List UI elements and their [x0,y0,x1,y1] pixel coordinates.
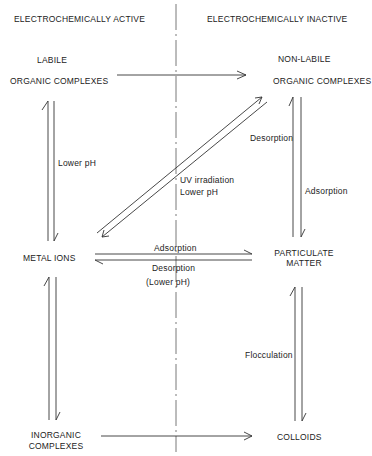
arrow-pair-metal-nonlabile-diagonal [97,97,267,237]
label-desorption-mid: Desorption [152,263,195,273]
label-uv-lower-ph: Lower pH [180,187,218,197]
node-metal-ions: METAL IONS [23,253,76,263]
label-uv-irradiation: UV irradiation [180,175,234,185]
arrow-pair-labile-metal [42,101,58,241]
label-lower-ph-mid: (Lower pH) [146,277,190,287]
node-colloids: COLLOIDS [277,432,322,442]
node-particulate-line2: MATTER [272,258,336,268]
header-electrochemically-inactive: ELECTROCHEMICALLY INACTIVE [207,14,347,24]
arrow-labile-to-nonlabile [117,71,246,79]
diagram-arrows [0,0,372,456]
node-nonlabile-label: NON-LABILE [278,54,331,64]
node-inorganic-line1: INORGANIC [26,430,86,440]
node-nonlabile-organic-complexes: ORGANIC COMPLEXES [273,76,371,86]
label-adsorption-right: Adsorption [305,186,348,196]
arrow-pair-metal-inorganic [44,277,60,420]
arrow-pair-nonlabile-particulate [289,97,305,237]
header-electrochemically-active: ELECTROCHEMICALLY ACTIVE [14,14,145,24]
label-desorption-right: Desorption [250,133,293,143]
node-inorganic-line2: COMPLEXES [26,441,86,451]
node-labile-label: LABILE [37,55,67,65]
label-lower-ph-left: Lower pH [58,158,96,168]
arrow-inorganic-to-colloids [101,432,252,440]
label-flocculation: Flocculation [245,350,293,360]
node-particulate-line1: PARTICULATE [272,248,336,258]
node-labile-organic-complexes: ORGANIC COMPLEXES [10,76,108,86]
label-adsorption-mid: Adsorption [154,243,197,253]
